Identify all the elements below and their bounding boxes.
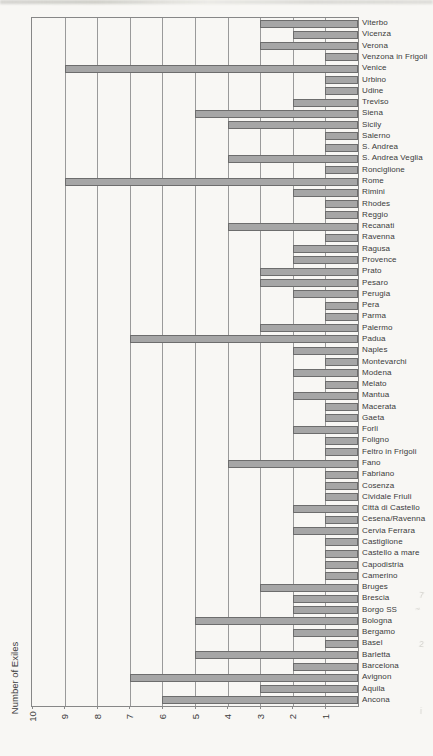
bar bbox=[325, 516, 358, 524]
category-label: Cesena/Ravenna bbox=[362, 514, 425, 523]
bar bbox=[325, 132, 358, 140]
category-label: Cosenza bbox=[362, 481, 394, 490]
tick-label: 1 bbox=[319, 706, 330, 728]
category-label: S. Andrea Veglia bbox=[362, 153, 423, 162]
bar bbox=[195, 110, 358, 118]
category-label: Provence bbox=[362, 255, 397, 264]
bar bbox=[228, 155, 358, 163]
bar bbox=[325, 640, 358, 648]
category-label: Camerino bbox=[362, 571, 397, 580]
tick-label: 5 bbox=[189, 706, 200, 728]
bar bbox=[293, 629, 358, 637]
bar bbox=[293, 505, 358, 513]
tick-label: 7 bbox=[124, 706, 135, 728]
category-label: Basel bbox=[362, 638, 383, 647]
category-label: Sicily bbox=[362, 120, 381, 129]
category-label: Capodistria bbox=[362, 560, 404, 569]
gridline bbox=[130, 18, 131, 706]
category-label: Pesaro bbox=[362, 278, 388, 287]
category-label: Modena bbox=[362, 368, 392, 377]
bar bbox=[293, 392, 358, 400]
category-label: Ronciglione bbox=[362, 165, 405, 174]
bar bbox=[293, 347, 358, 355]
bar bbox=[325, 414, 358, 422]
category-label: Urbino bbox=[362, 75, 386, 84]
bar bbox=[293, 99, 358, 107]
category-label: Reggio bbox=[362, 210, 388, 219]
bar bbox=[260, 268, 358, 276]
category-label: Padua bbox=[362, 334, 386, 343]
category-label: Montevarchi bbox=[362, 357, 407, 366]
scanned-chart-page: ViterboVicenzaVeronaVenzona in FrigoliVe… bbox=[0, 0, 433, 756]
bar bbox=[260, 324, 358, 332]
category-label: Venzona in Frigoli bbox=[362, 52, 427, 61]
category-label: Foligno bbox=[362, 435, 389, 444]
bar bbox=[228, 121, 358, 129]
bar bbox=[195, 651, 358, 659]
tick-label: 9 bbox=[59, 706, 70, 728]
category-label: Rome bbox=[362, 176, 384, 185]
plot-area bbox=[31, 17, 359, 707]
category-label: Treviso bbox=[362, 97, 389, 106]
category-label: Prato bbox=[362, 266, 382, 275]
bar bbox=[325, 76, 358, 84]
category-label: Melato bbox=[362, 379, 387, 388]
category-label: Forli bbox=[362, 424, 378, 433]
category-label: Avignon bbox=[362, 672, 391, 681]
bar bbox=[325, 482, 358, 490]
bar bbox=[260, 685, 358, 693]
bar bbox=[293, 663, 358, 671]
tick-label: 3 bbox=[254, 706, 265, 728]
bar bbox=[293, 606, 358, 614]
bar bbox=[325, 144, 358, 152]
bar bbox=[325, 87, 358, 95]
category-label: Cervia Ferrara bbox=[362, 526, 415, 535]
tick-label: 2 bbox=[287, 706, 298, 728]
category-label: Palermo bbox=[362, 323, 393, 332]
category-label: S. Andrea bbox=[362, 142, 398, 151]
bar bbox=[228, 460, 358, 468]
bar bbox=[325, 200, 358, 208]
margin-pencil-mark: 7 bbox=[418, 590, 424, 601]
category-label: Rhodes bbox=[362, 199, 390, 208]
bar bbox=[293, 245, 358, 253]
gridline bbox=[195, 18, 196, 706]
category-label: Fano bbox=[362, 458, 381, 467]
bar bbox=[325, 471, 358, 479]
bar bbox=[228, 223, 358, 231]
bar bbox=[293, 256, 358, 264]
category-label: Salerno bbox=[362, 131, 390, 140]
bar bbox=[65, 178, 358, 186]
bar bbox=[325, 234, 358, 242]
category-label: Perugia bbox=[362, 289, 390, 298]
bar bbox=[293, 426, 358, 434]
category-label: Pera bbox=[362, 300, 379, 309]
bar bbox=[195, 617, 358, 625]
bar bbox=[293, 290, 358, 298]
category-label: Ravenna bbox=[362, 232, 395, 241]
category-label: Bergamo bbox=[362, 627, 395, 636]
category-label: Udine bbox=[362, 86, 383, 95]
category-label: Naples bbox=[362, 345, 388, 354]
bar bbox=[325, 448, 358, 456]
bar bbox=[325, 403, 358, 411]
category-label: Castello a mare bbox=[362, 548, 420, 557]
margin-pencil-mark: 2 bbox=[419, 639, 425, 649]
bar bbox=[293, 189, 358, 197]
category-label: Parma bbox=[362, 311, 386, 320]
tick-label: 10 bbox=[26, 706, 37, 728]
category-label: Barletta bbox=[362, 650, 390, 659]
gridline bbox=[97, 18, 98, 706]
gridline bbox=[65, 18, 66, 706]
gridline bbox=[162, 18, 163, 706]
category-label: Recanati bbox=[362, 221, 394, 230]
bar bbox=[260, 42, 358, 50]
bar bbox=[325, 538, 358, 546]
tick-label: 8 bbox=[91, 706, 102, 728]
bar bbox=[260, 279, 358, 287]
axis-title: Number of Exiles bbox=[9, 637, 21, 719]
bar bbox=[325, 166, 358, 174]
category-label: Macerata bbox=[362, 402, 396, 411]
category-label: Aquila bbox=[362, 684, 385, 693]
bar bbox=[325, 211, 358, 219]
